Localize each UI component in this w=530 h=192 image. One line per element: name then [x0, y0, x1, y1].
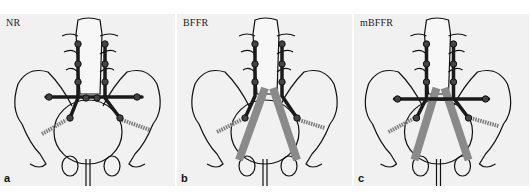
pelvis-diagram-nr — [0, 14, 175, 186]
pelvis-diagram-bffr — [177, 14, 352, 186]
panel-title: mBFFR — [360, 17, 393, 28]
panel-a-nr: NR a — [0, 14, 175, 186]
panel-letter: a — [4, 172, 10, 184]
pelvic-fixation-figure: NR a — [0, 0, 530, 192]
panel-letter: b — [181, 172, 188, 184]
pelvis-diagram-mbffr — [354, 14, 529, 186]
panel-title: BFFR — [183, 17, 208, 28]
panel-c-mbffr: mBFFR c — [354, 14, 529, 186]
panel-title: NR — [6, 17, 20, 28]
panel-b-bffr: BFFR b — [177, 14, 352, 186]
panel-letter: c — [358, 172, 364, 184]
